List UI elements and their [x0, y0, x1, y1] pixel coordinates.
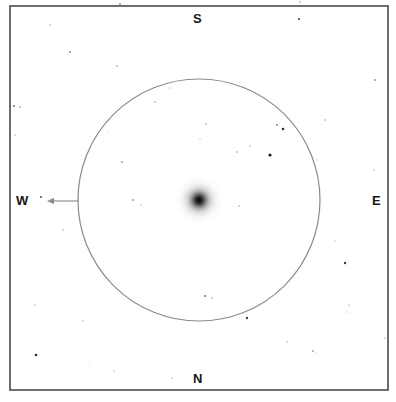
star-point [211, 297, 213, 299]
star-point [286, 341, 288, 343]
star-point [121, 161, 123, 163]
compass-label-south: S [193, 12, 202, 25]
central-object [167, 168, 231, 232]
star-point [249, 145, 251, 147]
star-point [49, 24, 51, 26]
star-point [13, 105, 15, 107]
star-point [374, 79, 376, 81]
star-point [132, 199, 134, 201]
star-point [282, 128, 285, 131]
compass-label-west: W [16, 194, 28, 207]
chart-canvas [0, 0, 396, 402]
star-point [40, 196, 42, 198]
star-point [62, 229, 64, 231]
star-point [298, 18, 300, 20]
star-point [89, 361, 90, 362]
star-point [67, 53, 68, 54]
star-point [19, 106, 21, 108]
star-point [69, 51, 71, 53]
star-point [346, 311, 347, 312]
star-point [373, 169, 375, 171]
star-point [107, 130, 108, 131]
star-point [344, 262, 346, 264]
star-point [159, 255, 160, 256]
star-point [116, 65, 118, 67]
star-point [268, 153, 271, 156]
compass-label-north: N [193, 372, 203, 385]
star-point [204, 295, 206, 297]
star-point [154, 101, 156, 103]
finder-chart: S N W E [0, 0, 396, 402]
star-point [82, 320, 84, 322]
star-point [384, 337, 386, 339]
star-point [324, 119, 326, 121]
star-point [169, 87, 170, 88]
star-point [140, 204, 141, 205]
star-point [199, 138, 200, 139]
star-point [276, 124, 278, 126]
star-point [312, 350, 314, 352]
star-point [119, 3, 121, 5]
star-point [113, 370, 115, 372]
star-point [171, 377, 173, 379]
star-point [348, 304, 350, 306]
star-point [246, 317, 248, 319]
compass-label-east: E [372, 194, 381, 207]
star-point [316, 159, 317, 160]
star-point [34, 304, 36, 306]
star-point [334, 240, 335, 241]
star-point [315, 352, 316, 353]
star-point [299, 1, 301, 3]
star-point [35, 354, 38, 357]
star-point [205, 123, 207, 125]
star-point [236, 151, 238, 153]
object-core-glow [176, 177, 223, 224]
star-point [238, 205, 240, 207]
star-point [14, 134, 16, 136]
